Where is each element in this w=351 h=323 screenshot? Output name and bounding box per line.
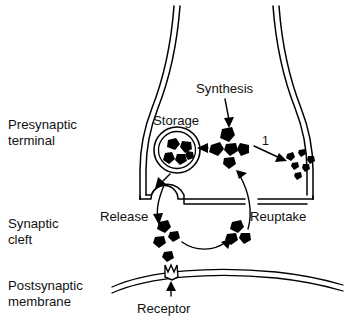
postsynaptic-membrane-line2: membrane <box>8 294 71 309</box>
presynaptic-terminal-line1: Presynaptic <box>8 117 77 132</box>
region-label-synaptic-cleft: Synaptic cleft <box>8 216 59 247</box>
label-synthesis: Synthesis <box>196 81 254 96</box>
synaptic-cleft-line2: cleft <box>8 232 33 247</box>
release-site-arrow <box>155 174 170 189</box>
label-degradation-number: 1 <box>262 134 269 148</box>
storage-vesicle <box>154 127 200 173</box>
receptor-arrow <box>166 281 176 296</box>
postsynaptic-membrane-line1: Postsynaptic <box>8 278 83 293</box>
cytoplasmic-transmitter-pool <box>209 127 249 169</box>
synaptic-cleft-line1: Synaptic <box>8 216 59 231</box>
label-receptor: Receptor <box>137 301 191 316</box>
degradation-arrow <box>254 146 287 162</box>
region-label-postsynaptic-membrane: Postsynaptic membrane <box>8 278 83 309</box>
presynaptic-terminal-line2: terminal <box>8 133 55 148</box>
synapse-diagram: Synthesis Storage Release Reuptake Recep… <box>0 0 351 323</box>
postsynaptic-membrane-outline <box>112 269 343 293</box>
label-release: Release <box>100 209 148 224</box>
release-arrow <box>153 185 164 225</box>
synthesis-arrow <box>224 99 234 128</box>
region-label-presynaptic-terminal: Presynaptic terminal <box>8 117 77 148</box>
label-reuptake: Reuptake <box>250 209 306 224</box>
metabolite-cluster <box>286 149 315 180</box>
cleft-released-particles <box>153 220 180 262</box>
synapse-illustration: Synthesis Storage Release Reuptake Recep… <box>0 0 351 323</box>
receptor-site <box>165 265 178 280</box>
label-storage: Storage <box>153 113 199 128</box>
diffusion-arrow <box>182 238 232 249</box>
